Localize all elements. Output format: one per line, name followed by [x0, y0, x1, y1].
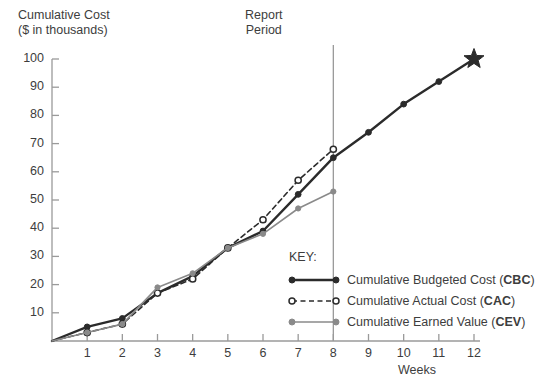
y-tick-label: 10 — [14, 305, 44, 319]
legend-label-cbc: Cumulative Budgeted Cost (CBC) — [347, 273, 535, 287]
data-point-cac — [330, 146, 336, 152]
legend-item-cac: Cumulative Actual Cost (CAC) — [288, 290, 535, 311]
data-point-cbc — [295, 191, 301, 197]
legend-item-cbc: Cumulative Budgeted Cost (CBC) — [288, 269, 535, 290]
report-period-line1: Report — [245, 8, 283, 22]
y-tick-label: 70 — [14, 136, 44, 150]
data-point-cev — [225, 245, 230, 250]
report-period-label: ReportPeriod — [245, 8, 283, 38]
data-point-cbc — [401, 101, 407, 107]
x-tick-label: 4 — [181, 346, 205, 360]
legend-label-cev: Cumulative Earned Value (CEV) — [347, 315, 525, 329]
y-axis-title: Cumulative Cost($ in thousands) — [18, 8, 110, 38]
legend-swatch-cbc — [288, 273, 340, 287]
data-point-cev — [260, 231, 265, 236]
legend-title: KEY: — [288, 250, 535, 264]
data-point-cev — [190, 271, 195, 276]
x-tick-label: 6 — [251, 346, 275, 360]
data-point-cac — [295, 177, 301, 183]
x-tick-label: 3 — [146, 346, 170, 360]
legend-abbr-cbc: CBC — [503, 273, 530, 287]
legend: KEY: Cumulative Budgeted Cost (CBC)Cumul… — [288, 250, 535, 332]
cumulative-cost-chart: Cumulative Cost($ in thousands) ReportPe… — [0, 0, 537, 392]
data-point-cev — [155, 285, 160, 290]
legend-entries: Cumulative Budgeted Cost (CBC)Cumulative… — [288, 269, 535, 332]
legend-label-cac: Cumulative Actual Cost (CAC) — [347, 294, 515, 308]
y-axis-title-line2: ($ in thousands) — [18, 23, 108, 37]
x-tick-label: 1 — [75, 346, 99, 360]
x-axis-title: Weeks — [398, 363, 436, 377]
y-tick-label: 80 — [14, 107, 44, 121]
y-tick-label: 100 — [14, 51, 44, 65]
data-point-cev — [85, 330, 90, 335]
y-tick-label: 40 — [14, 220, 44, 234]
x-tick-label: 2 — [110, 346, 134, 360]
plot-area — [0, 0, 537, 392]
x-tick-label: 11 — [427, 346, 451, 360]
data-point-cac — [260, 217, 266, 223]
y-axis-title-line1: Cumulative Cost — [18, 8, 110, 22]
x-tick-label: 8 — [321, 346, 345, 360]
data-point-cac — [154, 290, 160, 296]
legend-swatch-cev — [288, 315, 340, 329]
report-period-line2: Period — [246, 23, 282, 37]
data-point-cev — [120, 321, 125, 326]
data-point-cbc — [330, 155, 336, 161]
data-point-cac — [190, 276, 196, 282]
legend-abbr-cev: CEV — [495, 315, 521, 329]
x-tick-label: 12 — [462, 346, 486, 360]
y-tick-label: 30 — [14, 248, 44, 262]
y-tick-label: 90 — [14, 79, 44, 93]
x-tick-label: 9 — [357, 346, 381, 360]
data-point-cbc — [366, 129, 372, 135]
data-point-cev — [296, 206, 301, 211]
y-tick-label: 60 — [14, 164, 44, 178]
x-tick-label: 10 — [392, 346, 416, 360]
legend-item-cev: Cumulative Earned Value (CEV) — [288, 311, 535, 332]
y-tick-label: 50 — [14, 192, 44, 206]
legend-abbr-cac: CAC — [484, 294, 511, 308]
y-tick-label: 20 — [14, 277, 44, 291]
data-point-cbc — [436, 79, 442, 85]
data-point-cev — [331, 189, 336, 194]
legend-swatch-cac — [288, 294, 340, 308]
x-tick-label: 7 — [286, 346, 310, 360]
x-tick-label: 5 — [216, 346, 240, 360]
